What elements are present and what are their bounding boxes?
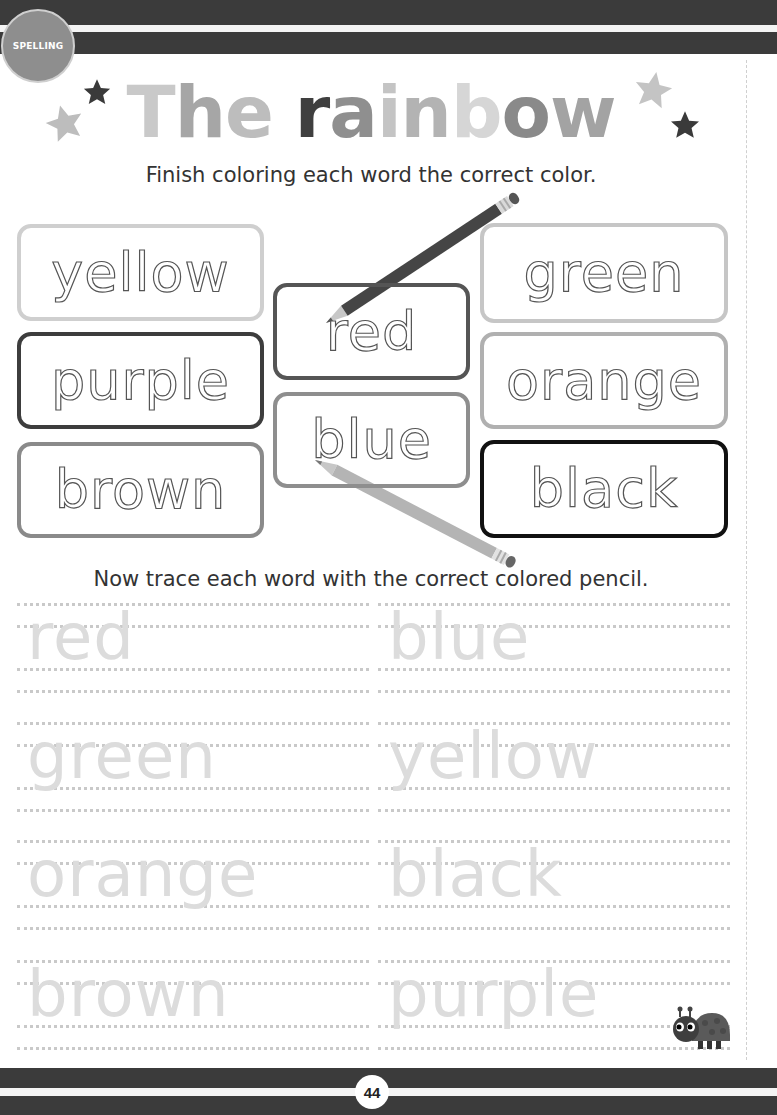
handwriting-guide-line xyxy=(378,809,730,812)
page-margin-line xyxy=(746,60,747,1060)
word-box-black: black xyxy=(480,440,728,538)
title-letter: r xyxy=(295,72,330,152)
ladybug-icon xyxy=(670,1005,732,1053)
trace-word-black[interactable]: black xyxy=(388,842,563,906)
title-letter: o xyxy=(501,72,549,152)
outline-word: red xyxy=(326,305,418,359)
header-stripe xyxy=(0,25,777,32)
trace-word-purple[interactable]: purple xyxy=(388,962,599,1026)
trace-word-yellow[interactable]: yellow xyxy=(388,724,598,788)
outline-word: black xyxy=(530,462,678,516)
word-box-red: red xyxy=(273,283,470,380)
handwriting-guide-line xyxy=(17,690,369,693)
outline-word: blue xyxy=(311,413,432,467)
trace-word-blue[interactable]: blue xyxy=(388,605,530,669)
title-letter: i xyxy=(377,72,401,152)
handwriting-guide-line xyxy=(378,927,730,930)
page-number: 44 xyxy=(355,1075,389,1109)
page-number-text: 44 xyxy=(364,1084,381,1101)
handwriting-guide-line xyxy=(378,690,730,693)
outline-word: yellow xyxy=(51,246,229,300)
word-box-orange: orange xyxy=(480,332,728,429)
handwriting-guide-line xyxy=(17,1047,369,1050)
outline-word: green xyxy=(524,246,685,300)
trace-word-red[interactable]: red xyxy=(27,605,135,669)
title-letter: h xyxy=(175,72,225,152)
handwriting-guide-line xyxy=(17,927,369,930)
word-box-yellow: yellow xyxy=(17,224,264,321)
outline-word: purple xyxy=(51,354,230,408)
trace-word-orange[interactable]: orange xyxy=(27,842,258,906)
word-box-brown: brown xyxy=(17,442,264,538)
title-letter: w xyxy=(550,72,616,152)
trace-word-brown[interactable]: brown xyxy=(27,962,230,1026)
title-letter: b xyxy=(451,72,502,152)
outline-word: orange xyxy=(506,354,702,408)
title-letter: n xyxy=(401,72,451,152)
header-band xyxy=(0,0,777,54)
handwriting-guide-line xyxy=(17,809,369,812)
title-letter: T xyxy=(127,72,175,152)
title-letter: a xyxy=(329,72,377,152)
page-title: The rainbow xyxy=(0,72,742,152)
trace-word-green[interactable]: green xyxy=(27,724,217,788)
word-box-purple: purple xyxy=(17,332,264,429)
coloring-instruction: Finish coloring each word the correct co… xyxy=(0,163,742,187)
word-box-blue: blue xyxy=(273,392,470,488)
section-label: SPELLING xyxy=(13,41,64,51)
title-letter: e xyxy=(225,72,273,152)
tracing-instruction: Now trace each word with the correct col… xyxy=(0,567,742,591)
outline-word: brown xyxy=(55,463,227,517)
word-box-green: green xyxy=(480,223,728,323)
